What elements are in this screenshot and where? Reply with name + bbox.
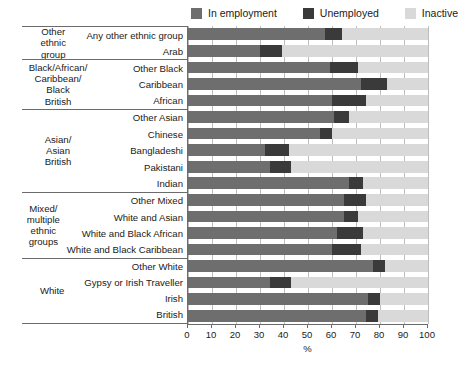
x-tick-20 — [235, 324, 236, 328]
bar-segment-employment[interactable] — [188, 177, 349, 189]
bar-row[interactable] — [188, 227, 427, 239]
legend-item-unemployed[interactable]: Unemployed — [303, 8, 379, 19]
bar-segment-employment[interactable] — [188, 144, 265, 156]
bar-segment-employment[interactable] — [188, 95, 332, 107]
bar-segment-inactive[interactable] — [358, 62, 428, 74]
bar-row[interactable] — [188, 78, 427, 90]
bar-segment-inactive[interactable] — [349, 111, 428, 123]
bar-segment-unemployed[interactable] — [330, 62, 359, 74]
bar-segment-unemployed[interactable] — [344, 211, 358, 223]
bar-row[interactable] — [188, 144, 427, 156]
category-group-label: White — [22, 259, 84, 323]
bar-segment-employment[interactable] — [188, 194, 344, 206]
bar-segment-unemployed[interactable] — [325, 28, 342, 40]
x-tick-100 — [427, 324, 428, 328]
bar-segment-employment[interactable] — [188, 62, 330, 74]
bar-segment-employment[interactable] — [188, 161, 270, 173]
bar-segment-employment[interactable] — [188, 310, 366, 322]
bar-segment-inactive[interactable] — [342, 28, 428, 40]
bar-segment-employment[interactable] — [188, 227, 337, 239]
bar-segment-employment[interactable] — [188, 111, 334, 123]
bar-row[interactable] — [188, 177, 427, 189]
bar-segment-inactive[interactable] — [332, 128, 428, 140]
bar-segment-employment[interactable] — [188, 277, 270, 289]
bar-row[interactable] — [188, 244, 427, 256]
bar-segment-unemployed[interactable] — [361, 78, 387, 90]
x-tick-label: 40 — [271, 329, 295, 340]
bar-segment-unemployed[interactable] — [349, 177, 363, 189]
bar-row[interactable] — [188, 211, 427, 223]
category-row-label: White and Black Caribbean — [67, 241, 187, 257]
bar-segment-unemployed[interactable] — [270, 161, 292, 173]
bar-segment-employment[interactable] — [188, 260, 373, 272]
x-tick-label: 80 — [367, 329, 391, 340]
bar-row[interactable] — [188, 293, 427, 305]
category-row-label: Other Black — [96, 60, 187, 76]
bar-segment-employment[interactable] — [188, 45, 260, 57]
bar-segment-inactive[interactable] — [380, 293, 428, 305]
category-group: WhiteOther WhiteGypsy or Irish Traveller… — [22, 258, 187, 324]
legend-swatch-inactive-icon — [405, 8, 416, 19]
bar-segment-unemployed[interactable] — [373, 260, 385, 272]
bar-row[interactable] — [188, 28, 427, 40]
bar-segment-employment[interactable] — [188, 78, 361, 90]
x-tick-label: 90 — [391, 329, 415, 340]
bar-segment-unemployed[interactable] — [332, 244, 361, 256]
category-row-label: British — [84, 307, 187, 323]
bar-row[interactable] — [188, 310, 427, 322]
bar-segment-inactive[interactable] — [358, 211, 428, 223]
bar-row[interactable] — [188, 277, 427, 289]
bar-row[interactable] — [188, 62, 427, 74]
category-group: Asian/AsianBritishOther AsianChineseBang… — [22, 109, 187, 192]
bar-row[interactable] — [188, 95, 427, 107]
bar-segment-inactive[interactable] — [363, 227, 428, 239]
x-tick-10 — [211, 324, 212, 328]
bar-segment-unemployed[interactable] — [337, 227, 363, 239]
bar-segment-unemployed[interactable] — [366, 310, 378, 322]
bars-container — [188, 26, 427, 324]
plot-area — [187, 26, 427, 324]
x-tick-label: 30 — [247, 329, 271, 340]
bar-row[interactable] — [188, 111, 427, 123]
bar-segment-employment[interactable] — [188, 28, 325, 40]
bar-segment-inactive[interactable] — [291, 277, 428, 289]
bar-segment-inactive[interactable] — [282, 45, 428, 57]
bar-segment-unemployed[interactable] — [270, 277, 292, 289]
x-tick-60 — [331, 324, 332, 328]
category-row-label: Other Asian — [96, 110, 187, 126]
bar-row[interactable] — [188, 45, 427, 57]
bar-segment-unemployed[interactable] — [368, 293, 380, 305]
bar-segment-inactive[interactable] — [289, 144, 428, 156]
bar-segment-inactive[interactable] — [378, 310, 428, 322]
x-tick-0 — [187, 324, 188, 328]
legend-item-inactive[interactable]: Inactive — [405, 8, 458, 19]
bar-segment-inactive[interactable] — [363, 177, 428, 189]
bar-segment-employment[interactable] — [188, 211, 344, 223]
bar-segment-inactive[interactable] — [361, 244, 428, 256]
x-tick-70 — [355, 324, 356, 328]
bar-row[interactable] — [188, 194, 427, 206]
bar-segment-inactive[interactable] — [385, 260, 428, 272]
bar-segment-unemployed[interactable] — [320, 128, 332, 140]
legend-label: Inactive — [422, 8, 458, 19]
bar-segment-employment[interactable] — [188, 293, 368, 305]
category-group: Black/African/Caribbean/BlackBritishOthe… — [22, 59, 187, 109]
bar-segment-unemployed[interactable] — [334, 111, 348, 123]
bar-row[interactable] — [188, 260, 427, 272]
bar-segment-unemployed[interactable] — [265, 144, 289, 156]
bar-row[interactable] — [188, 128, 427, 140]
x-tick-label: 20 — [223, 329, 247, 340]
bar-row[interactable] — [188, 161, 427, 173]
bar-segment-unemployed[interactable] — [332, 95, 366, 107]
legend-item-employment[interactable]: In employment — [191, 8, 277, 19]
bar-segment-inactive[interactable] — [387, 78, 428, 90]
bar-segment-employment[interactable] — [188, 244, 332, 256]
bar-segment-inactive[interactable] — [366, 95, 428, 107]
bar-segment-employment[interactable] — [188, 128, 320, 140]
bar-segment-inactive[interactable] — [366, 194, 428, 206]
category-row-label: White and Asian — [67, 209, 187, 225]
category-row-label: African — [96, 93, 187, 109]
bar-segment-inactive[interactable] — [291, 161, 428, 173]
bar-segment-unemployed[interactable] — [344, 194, 366, 206]
bar-segment-unemployed[interactable] — [260, 45, 282, 57]
